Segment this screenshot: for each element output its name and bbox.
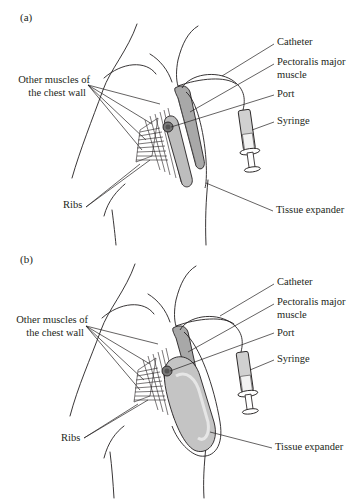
label-other-muscles-line2: the chest wall	[26, 327, 84, 340]
label-tissue-expander: Tissue expander	[275, 441, 343, 454]
label-syringe: Syringe	[277, 353, 310, 366]
panel-label-b: (b)	[20, 253, 33, 265]
label-pectoralis-major-line1: Pectoralis major	[277, 56, 346, 69]
label-other-muscles-line2: the chest wall	[28, 87, 86, 100]
panel-a: (a) Catheter Pectoralis major muscle Por…	[0, 0, 358, 246]
label-ribs: Ribs	[61, 432, 80, 445]
label-pectoralis-major-line2: muscle	[277, 69, 307, 82]
label-other-muscles-line1: Other muscles of	[18, 74, 90, 87]
label-syringe: Syringe	[277, 115, 310, 128]
label-port: Port	[277, 327, 295, 340]
label-catheter: Catheter	[277, 276, 313, 289]
label-tissue-expander: Tissue expander	[276, 204, 344, 217]
label-ribs: Ribs	[63, 199, 82, 212]
label-pectoralis-major-line1: Pectoralis major	[277, 296, 346, 309]
label-port: Port	[277, 88, 295, 101]
label-catheter: Catheter	[277, 36, 313, 49]
label-other-muscles-line1: Other muscles of	[16, 314, 88, 327]
panel-b: (b) Catheter Pectoralis major muscle Por…	[0, 246, 358, 492]
panel-label-a: (a)	[20, 11, 32, 23]
label-pectoralis-major-line2: muscle	[277, 309, 307, 322]
